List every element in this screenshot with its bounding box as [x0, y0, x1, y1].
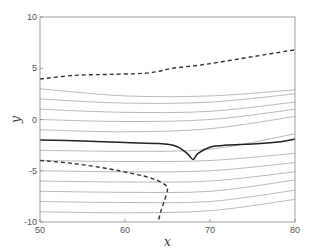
x-tick-label: 80 [290, 225, 300, 235]
series-gray-9 [40, 172, 295, 182]
y-tick-label: -5 [29, 166, 37, 176]
series-main-solid [40, 139, 295, 160]
x-tick-label: 60 [120, 225, 130, 235]
x-tick-label: 70 [205, 225, 215, 235]
series-gray-1 [40, 89, 295, 97]
series-gray-5 [40, 116, 295, 131]
y-tick-label: 5 [32, 63, 37, 73]
y-tick-label: -10 [24, 217, 37, 227]
series-upper-dashed [40, 50, 295, 79]
plot-lines [40, 50, 295, 222]
series-gray-2 [40, 94, 295, 103]
series-gray-6 [40, 134, 295, 152]
y-tick-label: 10 [27, 12, 37, 22]
series-gray-7 [40, 153, 295, 161]
y-tick-label: 0 [32, 115, 37, 125]
chart: 50607080-10-50510 x y [0, 0, 310, 248]
y-axis-label: y [9, 116, 23, 124]
x-axis-label: x [164, 235, 171, 248]
series-gray-12 [40, 199, 295, 212]
